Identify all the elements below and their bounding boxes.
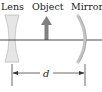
mirror-label: Mirror	[71, 1, 102, 12]
object-label: Object	[32, 1, 64, 12]
optics-diagram: Lens Object Mirror d	[0, 0, 102, 92]
concave-mirror	[78, 16, 85, 62]
object-arrow	[41, 16, 52, 40]
lens-label: Lens	[1, 1, 24, 12]
distance-label: d	[43, 68, 49, 79]
diverging-lens	[5, 15, 19, 62]
